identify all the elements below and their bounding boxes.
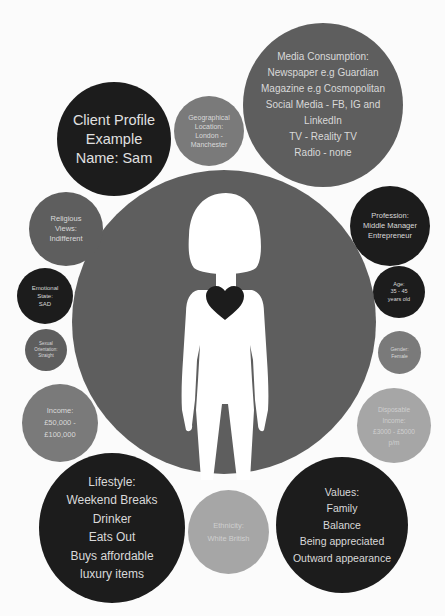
sexual-orientation-text: Sexual Orientation: Straight — [34, 341, 57, 359]
client-profile-title-circle: Client Profile Example Name: Sam — [57, 82, 171, 196]
income-text: Income: £50,000 - £100,000 — [44, 405, 76, 441]
profession-text: Profession: Middle Manager Entrepreneur — [363, 211, 417, 241]
income-circle: Income: £50,000 - £100,000 — [22, 384, 98, 462]
religious-views-circle: Religious Views: Indifferent — [29, 192, 103, 266]
emotional-state-circle: Emotional State: SAD — [17, 268, 73, 324]
title-line-2: Example — [73, 130, 155, 149]
title-line-3: Name: Sam — [73, 149, 155, 168]
ethnicity-circle: Ethnicity: White British — [188, 490, 269, 574]
lifestyle-text: Lifestyle: Weekend Breaks Drinker Eats O… — [66, 473, 157, 584]
disposable-income-text: Disposable Income: £3000 - £5000 p/m — [373, 404, 415, 448]
media-consumption-circle: Media Consumption: Newspaper e.g Guardia… — [243, 23, 403, 187]
gender-circle: Gender: Female — [378, 331, 421, 374]
title-line-1: Client Profile — [73, 111, 155, 130]
age-text: Age: 35 - 45 years old — [388, 281, 410, 304]
ethnicity-text: Ethnicity: White British — [207, 519, 249, 545]
profession-circle: Profession: Middle Manager Entrepreneur — [350, 186, 430, 266]
geographical-location-circle: Geographical Location: London - Manchest… — [174, 96, 244, 166]
emotional-state-text: Emotional State: SAD — [32, 284, 59, 308]
gender-text: Gender: Female — [390, 346, 408, 360]
media-consumption-text: Media Consumption: Newspaper e.g Guardia… — [261, 49, 385, 161]
sexual-orientation-circle: Sexual Orientation: Straight — [25, 329, 67, 371]
values-text: Values: Family Balance Being appreciated… — [293, 484, 391, 567]
religious-views-text: Religious Views: Indifferent — [49, 214, 82, 244]
lifestyle-circle: Lifestyle: Weekend Breaks Drinker Eats O… — [39, 453, 185, 603]
disposable-income-circle: Disposable Income: £3000 - £5000 p/m — [357, 388, 431, 463]
values-circle: Values: Family Balance Being appreciated… — [276, 457, 408, 593]
age-circle: Age: 35 - 45 years old — [373, 266, 425, 318]
geographical-location-text: Geographical Location: London - Manchest… — [188, 113, 230, 149]
